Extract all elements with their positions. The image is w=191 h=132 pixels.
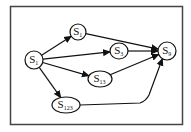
node-S1: S1 xyxy=(70,24,86,40)
node-S9: S9 xyxy=(158,42,176,60)
edges xyxy=(39,34,162,105)
node-S123: S123 xyxy=(52,97,80,113)
node-S1: S1 xyxy=(25,51,43,69)
edge-n0-n2 xyxy=(43,52,110,59)
edge-n0-n4 xyxy=(43,62,89,75)
edge-n0-n1 xyxy=(42,36,72,55)
state-diagram: S1S1S3S9S13S123 xyxy=(0,0,191,132)
edge-n0-n5 xyxy=(39,67,61,97)
node-S3: S3 xyxy=(110,43,128,59)
node-S13: S13 xyxy=(88,71,112,87)
